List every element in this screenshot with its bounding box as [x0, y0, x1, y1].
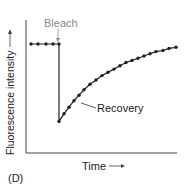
- data-point: [57, 120, 60, 123]
- data-point: [124, 61, 127, 64]
- bleach-arrowhead-icon: [56, 38, 60, 42]
- data-point: [62, 112, 65, 115]
- panel-label: (D): [8, 172, 23, 184]
- data-point: [161, 49, 164, 52]
- data-point: [72, 99, 75, 102]
- recovery-pointer: [81, 103, 96, 108]
- data-point: [174, 46, 177, 49]
- data-point: [100, 74, 103, 77]
- data-point: [51, 42, 54, 45]
- data-point: [118, 64, 121, 67]
- data-point: [154, 50, 157, 53]
- data-point: [77, 94, 80, 97]
- data-point: [36, 42, 39, 45]
- data-point: [136, 57, 139, 60]
- frap-chart: Bleach Recovery Fluorescence intensity T…: [0, 0, 187, 185]
- data-point: [57, 42, 60, 45]
- x-axis-label: Time: [82, 160, 106, 172]
- recovery-label: Recovery: [97, 102, 144, 114]
- data-point: [82, 88, 85, 91]
- data-point: [44, 42, 47, 45]
- data-point: [142, 54, 145, 57]
- data-point: [130, 59, 133, 62]
- data-point: [67, 106, 70, 109]
- data-point: [88, 83, 91, 86]
- data-point: [148, 52, 151, 55]
- data-point: [94, 78, 97, 81]
- y-axis-label: Fluorescence intensity: [4, 50, 16, 155]
- y-axis-arrowhead-icon: [8, 29, 12, 34]
- data-point: [167, 47, 170, 50]
- data-point: [112, 67, 115, 70]
- data-point: [106, 71, 109, 74]
- bleach-label: Bleach: [44, 17, 78, 29]
- data-point: [29, 42, 32, 45]
- x-axis-arrowhead-icon: [121, 164, 125, 168]
